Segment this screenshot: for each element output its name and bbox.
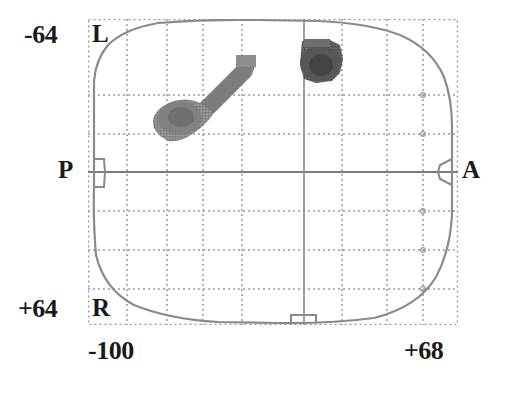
activation-blob-midline-anterior xyxy=(300,39,343,83)
y-axis-min-label: +64 xyxy=(18,296,57,322)
tick-circle-markers xyxy=(421,93,426,292)
glass-brain-figure: -64 +64 -100 +68 L R P A xyxy=(0,0,513,399)
y-axis-max-label: -64 xyxy=(24,22,57,48)
x-axis-min-label: -100 xyxy=(88,338,134,364)
brain-projection-plot xyxy=(88,19,458,325)
horizontal-gridlines xyxy=(88,95,458,289)
orientation-label-posterior: P xyxy=(58,157,73,182)
x-axis-max-label: +68 xyxy=(404,338,443,364)
brain-projection-canvas xyxy=(88,19,458,325)
activation-blob-left-hemisphere xyxy=(153,55,256,141)
orientation-label-anterior: A xyxy=(462,157,480,182)
